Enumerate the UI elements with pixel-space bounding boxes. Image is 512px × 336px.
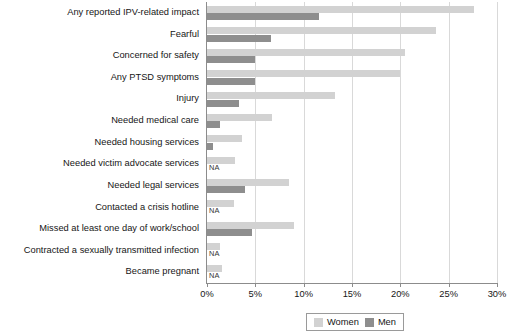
category-label: Became pregnant [126,261,199,283]
bar-group [207,24,497,46]
bar-women [207,70,400,77]
legend-label: Women [327,317,359,327]
category-label: Contacted a crisis hotline [95,197,199,219]
category-label: Needed legal services [108,175,199,197]
x-axis-tick-label: 0% [200,289,213,299]
chart-legend: WomenMen [306,313,404,331]
bar-women [207,6,474,13]
x-axis-tick-label: 15% [343,289,362,299]
bar-women [207,179,289,186]
category-label: Needed medical care [111,110,199,132]
bar-group [207,67,497,89]
category-label: Injury [176,88,199,110]
category-label: Any PTSD symptoms [111,67,199,89]
bar-group: NA [207,153,497,175]
legend-item: Women [314,317,359,327]
na-annotation: NA [209,250,220,258]
bar-group [207,132,497,154]
axis-tick [304,283,305,287]
axis-tick [255,283,256,287]
bar-women [207,135,242,142]
category-label: Any reported IPV-related impact [67,2,199,24]
bar-men [207,143,213,150]
legend-swatch-icon [365,318,374,327]
axis-tick [497,283,498,287]
bar-men [207,186,245,193]
axis-tick [207,283,208,287]
x-axis-tick-label: 20% [391,289,410,299]
bar-group [207,2,497,24]
bar-men [207,35,271,42]
category-label: Missed at least one day of work/school [39,218,199,240]
legend-item: Men [365,317,396,327]
bar-women [207,92,335,99]
bar-men [207,100,239,107]
legend-swatch-icon [314,318,323,327]
gridline [497,2,498,283]
bar-group [207,175,497,197]
na-annotation: NA [209,207,220,215]
bar-men [207,78,255,85]
bar-group [207,45,497,67]
bar-women [207,114,272,121]
bar-group [207,88,497,110]
bar-men [207,56,255,63]
bar-men [207,13,319,20]
bar-men [207,229,252,236]
bar-group [207,218,497,240]
category-label: Needed victim advocate services [63,153,199,175]
legend-label: Men [378,317,396,327]
axis-tick [352,283,353,287]
bar-group: NA [207,261,497,283]
axis-tick [449,283,450,287]
bar-women [207,49,405,56]
bar-women [207,222,294,229]
x-axis-tick-label: 25% [439,289,458,299]
category-label: Needed housing services [95,132,199,154]
x-axis-tick-label: 5% [249,289,262,299]
plot-area: 0%5%10%15%20%25%30%NANANANA [206,2,497,284]
x-axis-tick-label: 10% [294,289,313,299]
bar-group: NA [207,240,497,262]
category-label: Concerned for safety [113,45,199,67]
axis-tick [400,283,401,287]
category-label: Fearful [170,24,199,46]
bar-men [207,121,220,128]
category-axis: Any reported IPV-related impactFearfulCo… [0,2,203,283]
bar-group: NA [207,197,497,219]
bar-women [207,27,436,34]
bar-group [207,110,497,132]
na-annotation: NA [209,272,220,280]
grouped-bar-chart: Any reported IPV-related impactFearfulCo… [0,0,512,336]
category-label: Contracted a sexually transmitted infect… [24,240,199,262]
na-annotation: NA [209,164,220,172]
x-axis-tick-label: 30% [488,289,507,299]
